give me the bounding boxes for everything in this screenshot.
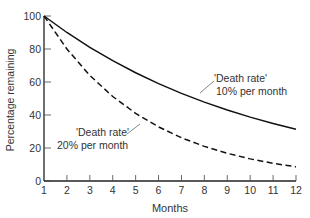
- x-tick-label: 2: [64, 184, 70, 196]
- annotation-10pct-line1: 'Death rate': [214, 72, 267, 84]
- x-tick-label: 4: [110, 184, 116, 196]
- annotation-20pct-line2: 20% per month: [57, 139, 128, 151]
- y-tick-label: 20: [29, 142, 41, 154]
- x-tick-label: 5: [133, 184, 139, 196]
- x-tick-label: 6: [156, 184, 162, 196]
- x-tick-label: 10: [244, 184, 256, 196]
- annotation-10pct-line2: 10% per month: [216, 85, 287, 97]
- x-tick-label: 12: [290, 184, 302, 196]
- annotation-10pct-leader: [200, 81, 214, 93]
- annotation-10pct: 'Death rate' 10% per month: [200, 72, 287, 97]
- x-tick-label: 1: [41, 184, 47, 196]
- y-tick-label: 60: [29, 76, 41, 88]
- annotation-20pct: 'Death rate' 20% per month: [57, 124, 140, 151]
- x-tick-label: 9: [224, 184, 230, 196]
- x-axis-label: Months: [152, 202, 189, 214]
- decay-chart: 020406080100123456789101112 Months Perce…: [0, 0, 310, 218]
- y-axis-label: Percentage remaining: [4, 48, 16, 151]
- annotation-20pct-line1: 'Death rate': [76, 126, 129, 138]
- y-tick-label: 100: [23, 10, 41, 22]
- x-tick-label: 11: [268, 184, 279, 196]
- y-tick-label: 40: [29, 109, 41, 121]
- x-tick-label: 7: [179, 184, 185, 196]
- y-tick-label: 80: [29, 43, 41, 55]
- x-tick-label: 8: [201, 184, 207, 196]
- x-tick-label: 3: [87, 184, 93, 196]
